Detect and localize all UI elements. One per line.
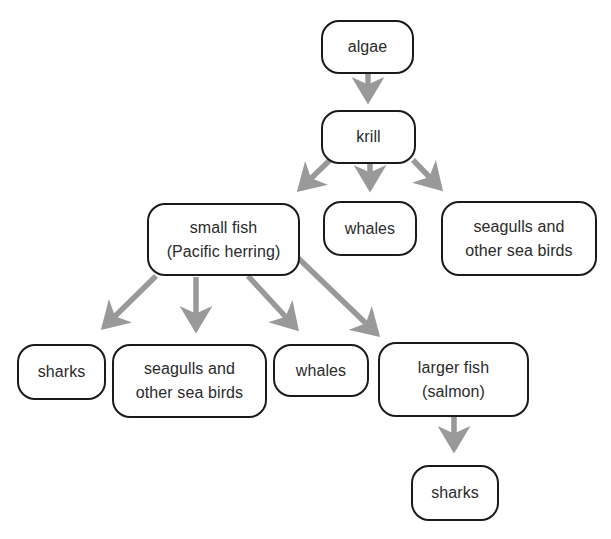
node-krill: krill xyxy=(321,110,416,164)
node-seagulls-bottom: seagulls and other sea birds xyxy=(112,344,267,418)
node-larger-fish: larger fish (salmon) xyxy=(378,342,529,417)
node-sharks-left: sharks xyxy=(17,344,106,400)
node-small-fish: small fish (Pacific herring) xyxy=(147,203,300,276)
node-algae: algae xyxy=(321,20,414,74)
node-label-line1: seagulls and xyxy=(144,357,235,381)
node-label: sharks xyxy=(38,360,86,384)
node-label: whales xyxy=(345,217,395,241)
arrow-small-fish-to-whales xyxy=(248,276,296,328)
node-label-line2: (salmon) xyxy=(422,380,485,404)
arrow-small-fish-to-sharks xyxy=(104,276,156,327)
node-label-line1: seagulls and xyxy=(473,215,564,239)
food-web-diagram: algae krill small fish (Pacific herring)… xyxy=(0,0,611,539)
node-whales-top: whales xyxy=(323,201,417,256)
node-label-line1: larger fish xyxy=(418,356,489,380)
arrow-krill-to-small-fish xyxy=(300,160,330,189)
node-sharks-bottom: sharks xyxy=(411,465,499,521)
node-seagulls-top: seagulls and other sea birds xyxy=(441,201,597,276)
arrow-krill-to-seagulls xyxy=(413,160,440,188)
node-label-line1: small fish xyxy=(190,216,258,240)
node-label: algae xyxy=(348,35,388,59)
node-label: krill xyxy=(356,125,381,149)
node-label-line2: other sea birds xyxy=(465,239,572,263)
node-label-line2: (Pacific herring) xyxy=(167,240,281,264)
node-label: sharks xyxy=(431,481,479,505)
node-whales-bottom: whales xyxy=(273,344,369,397)
node-label: whales xyxy=(296,359,346,383)
node-label-line2: other sea birds xyxy=(136,381,243,405)
arrow-small-fish-to-larger-fish xyxy=(296,256,377,334)
